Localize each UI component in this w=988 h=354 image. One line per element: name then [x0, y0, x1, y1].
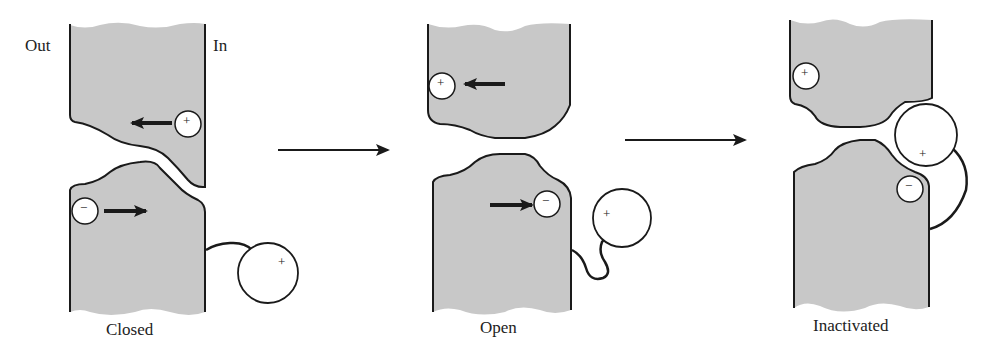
- inactivated-lower-protein: [794, 140, 929, 312]
- inside-label: In: [213, 36, 227, 56]
- inactivated-state: [790, 19, 967, 311]
- open-lower-protein: [433, 154, 571, 315]
- diagram-canvas: [0, 0, 988, 354]
- open-minus-sign: −: [542, 193, 549, 209]
- open-inactivation-ball: [593, 189, 651, 247]
- closed-inactivation-ball: [238, 243, 298, 303]
- state-label-open: Open: [480, 318, 517, 338]
- closed-chain: [206, 243, 252, 250]
- open-ball-plus-sign: +: [603, 206, 610, 222]
- open-state: [428, 23, 651, 314]
- closed-minus-sign: −: [80, 200, 87, 216]
- state-label-inactivated: Inactivated: [813, 316, 889, 336]
- state-label-closed: Closed: [106, 320, 153, 340]
- closed-plus-sign: +: [183, 113, 190, 129]
- open-plus-sign: +: [437, 75, 444, 91]
- closed-state: [70, 23, 298, 315]
- inactivated-plus-sign: +: [801, 65, 808, 81]
- closed-ball-plus-sign: +: [278, 254, 285, 270]
- inactivated-minus-sign: −: [905, 178, 912, 194]
- inactivated-ball-plus-sign: +: [919, 146, 926, 162]
- closed-lower-protein: [70, 162, 205, 315]
- outside-label: Out: [25, 36, 51, 56]
